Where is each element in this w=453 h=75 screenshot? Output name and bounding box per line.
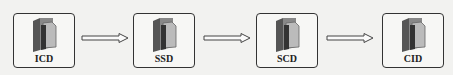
arrow-icon — [81, 33, 129, 43]
node-icd: ICD — [13, 13, 75, 68]
node-label: SCD — [257, 53, 317, 64]
arrow-icon — [203, 33, 251, 43]
folder-icon — [400, 17, 428, 53]
node-ssd: SSD — [133, 13, 195, 68]
folder-icon — [151, 17, 179, 53]
node-cid: CID — [382, 13, 444, 68]
folder-icon — [274, 17, 302, 53]
folder-icon — [31, 17, 59, 53]
node-label: SSD — [134, 53, 194, 64]
node-label: CID — [383, 53, 443, 64]
arrow-icon — [326, 33, 374, 43]
node-scd: SCD — [256, 13, 318, 68]
node-label: ICD — [14, 53, 74, 64]
